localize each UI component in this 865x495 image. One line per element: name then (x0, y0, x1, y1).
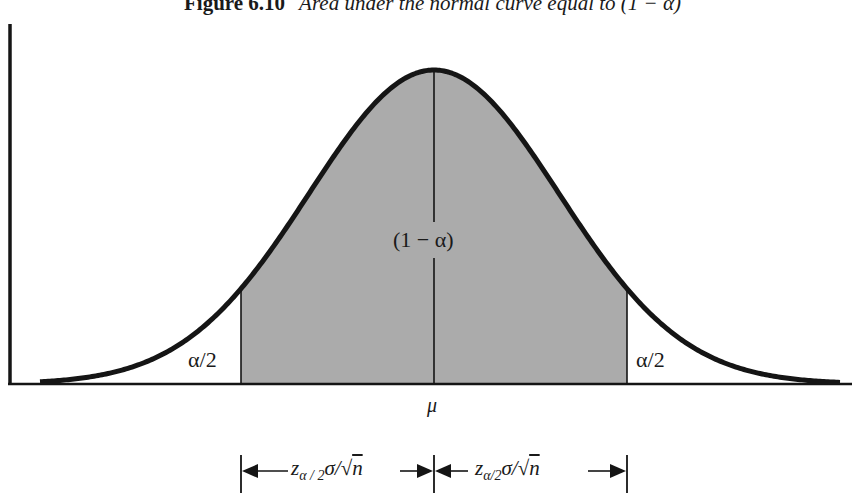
z-symbol: z (291, 456, 299, 480)
arrowhead-mid-right (435, 464, 451, 478)
z-subscript: α / 2 (299, 468, 324, 483)
left-interval-label: zα / 2σ/√n (288, 456, 366, 484)
z-symbol: z (475, 456, 483, 480)
sigma-over-root: σ/√ (501, 456, 529, 480)
arrowhead-left (242, 464, 258, 478)
mean-label: μ (427, 394, 437, 417)
n-symbol: n (352, 456, 363, 480)
arrowhead-mid-left (417, 464, 433, 478)
sigma-over-root: σ/√ (324, 456, 352, 480)
center-area-label: (1 − α) (393, 227, 454, 253)
arrowhead-right (610, 464, 626, 478)
left-tail-label: α/2 (188, 347, 217, 373)
n-symbol: n (529, 456, 540, 480)
right-interval-label: zα/2σ/√n (472, 456, 543, 484)
z-subscript: α/2 (483, 468, 501, 483)
right-tail-label: α/2 (636, 347, 665, 373)
